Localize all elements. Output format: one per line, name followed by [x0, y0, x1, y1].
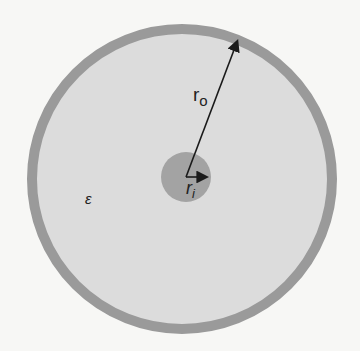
coax-diagram: ro ri ε [0, 0, 360, 351]
permittivity-label: ε [85, 190, 92, 207]
